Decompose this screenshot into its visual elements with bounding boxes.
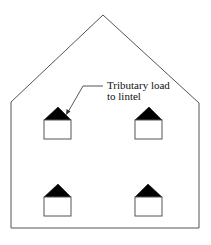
window-opening [135,197,162,216]
window-opening [44,120,71,139]
window-opening [135,120,162,139]
facade-diagram: Tributary load to lintel [0,0,211,245]
tributary-load-triangle [44,184,71,197]
building-outline [11,15,199,228]
arrowhead-icon [66,109,71,115]
windows-group [44,107,162,216]
window-bottom-left [44,184,71,216]
tributary-load-triangle [135,107,162,120]
window-bottom-right [135,184,162,216]
window-opening [44,197,71,216]
window-top-right [135,107,162,139]
annotation-leader [66,86,103,115]
annotation-label-line2: to lintel [107,90,141,102]
tributary-load-triangle [135,184,162,197]
leader-line [68,86,103,112]
